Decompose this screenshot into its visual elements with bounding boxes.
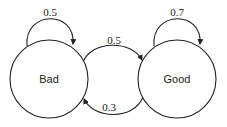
state-diagram: 0.5 0.7 0.5 0.3 Bad Good	[0, 0, 227, 127]
node-label-good: Good	[164, 73, 191, 85]
edge-label-good-good: 0.7	[170, 6, 184, 18]
edge-label-bad-good: 0.5	[107, 34, 121, 46]
node-label-bad: Bad	[39, 73, 59, 85]
edge-label-good-bad: 0.3	[102, 101, 116, 113]
edge-label-bad-bad: 0.5	[43, 6, 57, 18]
edge-bad-to-good	[83, 45, 142, 62]
